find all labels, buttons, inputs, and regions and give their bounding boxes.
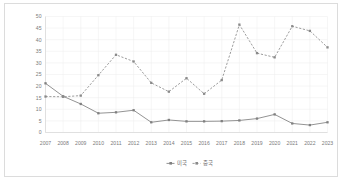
data-point-marker <box>326 46 328 48</box>
data-point-marker <box>185 120 187 122</box>
data-point-marker <box>273 113 275 115</box>
line-chart: 05101520253035404550 2007200820092010201… <box>5 4 339 178</box>
y-tick-label: 25 <box>36 71 42 77</box>
chart-container: 05101520253035404550 2007200820092010201… <box>4 3 338 177</box>
x-tick-label: 2020 <box>269 140 280 146</box>
x-tick-label: 2016 <box>198 140 209 146</box>
x-tick-label: 2014 <box>163 140 174 146</box>
x-tick-label: 2022 <box>304 140 315 146</box>
y-tick-label: 20 <box>36 83 42 89</box>
data-point-marker <box>97 112 99 114</box>
x-tick-label: 2019 <box>251 140 262 146</box>
x-tick-label: 2021 <box>287 140 298 146</box>
plot-area: 05101520253035404550 2007200820092010201… <box>5 4 339 178</box>
y-tick-label: 0 <box>39 129 42 135</box>
data-point-marker <box>291 25 293 27</box>
y-tick-label: 30 <box>36 60 42 66</box>
x-tick-label: 2015 <box>181 140 192 146</box>
x-axis-tick-labels: 2007200820092010201120122013201420152016… <box>40 140 333 146</box>
data-point-marker <box>150 82 152 84</box>
x-tick-label: 2017 <box>216 140 227 146</box>
y-tick-label: 10 <box>36 106 42 112</box>
x-tick-label: 2018 <box>234 140 245 146</box>
data-point-marker <box>309 30 311 32</box>
y-axis-tick-labels: 05101520253035404550 <box>36 13 42 135</box>
data-point-marker <box>62 96 64 98</box>
data-point-marker <box>203 120 205 122</box>
data-point-marker <box>203 93 205 95</box>
x-tick-label: 2008 <box>57 140 68 146</box>
data-point-marker <box>132 109 134 111</box>
data-point-marker <box>273 56 275 58</box>
data-point-marker <box>238 23 240 25</box>
y-tick-label: 45 <box>36 25 42 31</box>
data-point-marker <box>115 54 117 56</box>
legend-item-usa[interactable]: 미국 <box>167 159 188 167</box>
y-tick-label: 15 <box>36 95 42 101</box>
legend-marker-swatch <box>169 162 172 165</box>
legend-item-china[interactable]: 중국 <box>193 160 214 167</box>
data-point-marker <box>291 122 293 124</box>
data-point-marker <box>185 77 187 79</box>
data-point-marker <box>44 82 46 84</box>
data-point-marker <box>326 121 328 123</box>
x-tick-label: 2009 <box>75 140 86 146</box>
y-tick-label: 5 <box>39 118 42 124</box>
y-tick-label: 50 <box>36 13 42 19</box>
data-point-marker <box>80 103 82 105</box>
x-tick-label: 2012 <box>128 140 139 146</box>
x-tick-label: 2010 <box>93 140 104 146</box>
y-tick-label: 35 <box>36 48 42 54</box>
data-point-marker <box>80 94 82 96</box>
legend-label: 미국 <box>177 159 187 167</box>
data-point-marker <box>132 60 134 62</box>
y-tick-label: 40 <box>36 37 42 43</box>
data-point-marker <box>115 111 117 113</box>
x-tick-label: 2023 <box>322 140 333 146</box>
chart-legend: 미국중국 <box>167 159 214 167</box>
legend-label: 중국 <box>203 160 213 167</box>
data-point-marker <box>150 121 152 123</box>
data-point-marker <box>238 119 240 121</box>
data-point-marker <box>309 124 311 126</box>
data-point-marker <box>221 120 223 122</box>
data-point-marker <box>97 74 99 76</box>
data-point-marker <box>44 95 46 97</box>
x-tick-label: 2013 <box>146 140 157 146</box>
data-point-marker <box>221 79 223 81</box>
data-point-marker <box>168 91 170 93</box>
x-tick-label: 2007 <box>40 140 51 146</box>
data-point-marker <box>168 119 170 121</box>
x-tick-label: 2011 <box>111 140 122 146</box>
data-point-marker <box>256 52 258 54</box>
data-point-marker <box>256 117 258 119</box>
legend-marker-swatch <box>195 162 198 165</box>
